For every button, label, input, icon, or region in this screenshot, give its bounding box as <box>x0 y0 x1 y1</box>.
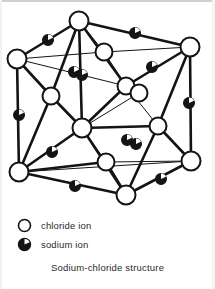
figure-caption: Sodium-chloride structure <box>0 262 215 273</box>
sodium-ion <box>43 35 54 46</box>
chloride-ion <box>8 50 27 69</box>
legend: chloride ion sodium ion <box>17 216 197 254</box>
open-circle-icon <box>17 218 32 233</box>
bond <box>104 47 190 52</box>
bond <box>17 52 104 59</box>
sodium-ion <box>184 98 195 109</box>
bond <box>158 47 190 126</box>
bond <box>126 47 190 86</box>
nacl-lattice-diagram <box>0 0 215 215</box>
sodium-ion <box>47 147 58 158</box>
sodium-ion <box>130 28 141 39</box>
filled-circle-icon <box>17 237 32 252</box>
legend-label-sodium: sodium ion <box>41 239 88 250</box>
legend-label-chloride: chloride ion <box>41 220 91 231</box>
legend-item-sodium: sodium ion <box>17 235 197 254</box>
sodium-ion <box>70 181 81 192</box>
bond <box>51 21 79 96</box>
chloride-ion <box>70 12 89 31</box>
chloride-ion <box>117 186 136 205</box>
sodium-ion <box>14 110 25 121</box>
chloride-ion <box>131 85 148 102</box>
chloride-ion <box>43 88 60 105</box>
legend-item-chloride: chloride ion <box>17 216 197 235</box>
sodium-ion <box>131 139 142 150</box>
chloride-ion <box>10 163 29 182</box>
sodium-ion <box>156 174 167 185</box>
figure-page: chloride ion sodium ion Sodium-chloride … <box>0 0 215 289</box>
chloride-ion <box>98 154 115 171</box>
chloride-ion <box>73 119 92 138</box>
bond <box>82 126 158 128</box>
sodium-ion <box>147 62 158 73</box>
chloride-ion <box>150 118 167 135</box>
chloride-ion <box>182 152 201 171</box>
chloride-ion <box>96 44 113 61</box>
sodium-ion <box>77 70 88 81</box>
chloride-ion <box>181 38 200 57</box>
